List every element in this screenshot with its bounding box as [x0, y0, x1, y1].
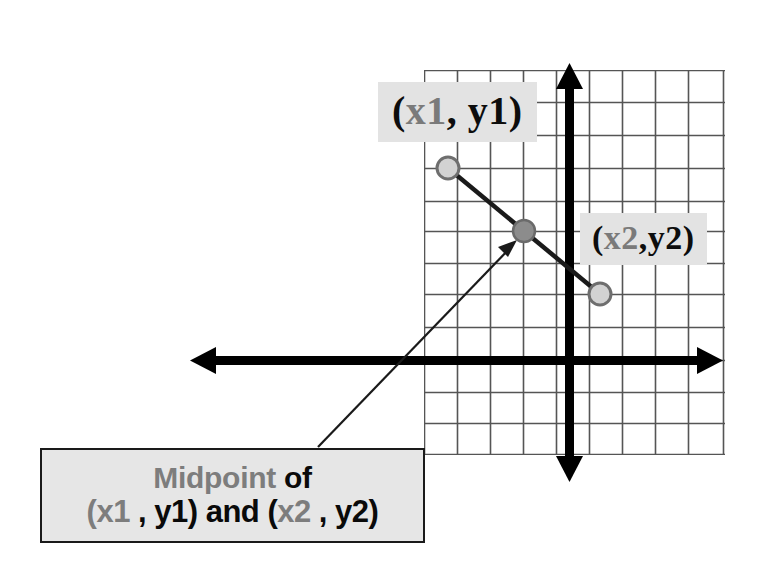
midpoint-line2-end: , y2) [311, 494, 379, 529]
point2-y-var: y2 [648, 219, 683, 256]
midpoint-word: Midpoint [153, 461, 276, 494]
point-midpoint-marker [513, 220, 535, 242]
point2-open-paren: ( [592, 219, 604, 256]
midpoint-line2-open: ( [87, 494, 97, 529]
midpoint-box-line-1: Midpoint of [153, 462, 311, 494]
point1-label: (x1, y1) [378, 82, 537, 142]
point-p2-marker [589, 283, 611, 305]
midpoint-line2-mid: , y1) and ( [130, 494, 277, 529]
point2-x-var: x2 [604, 219, 639, 256]
y-axis-arrow-top [556, 63, 583, 89]
of-word: of [276, 461, 312, 494]
figure-canvas: (x1, y1) (x2,y2) Midpoint of (x1 , y1) a… [0, 0, 766, 574]
midpoint-line2-x2: x2 [277, 494, 310, 529]
point1-y-var: y1 [468, 88, 509, 133]
midpoint-line2-x1: x1 [96, 494, 129, 529]
point2-separator: , [639, 219, 648, 256]
point1-x-var: x1 [406, 88, 447, 133]
midpoint-leader-arrowhead [498, 240, 517, 257]
midpoint-leader-annotation [318, 240, 517, 447]
midpoint-leader-line [318, 246, 512, 447]
point2-label: (x2,y2) [580, 213, 707, 265]
point2-close-paren: ) [683, 219, 695, 256]
x-axis-arrow-left [190, 347, 216, 374]
midpoint-callout-box: Midpoint of (x1 , y1) and (x2 , y2) [40, 448, 425, 543]
point1-close-paren: ) [509, 88, 523, 133]
x-axis-arrow-right [697, 347, 723, 374]
point1-open-paren: ( [392, 88, 406, 133]
midpoint-box-line-2: (x1 , y1) and (x2 , y2) [87, 495, 379, 529]
point-p1-marker [437, 157, 459, 179]
point1-separator: , [447, 88, 468, 133]
y-axis-arrow-bottom [556, 456, 583, 482]
